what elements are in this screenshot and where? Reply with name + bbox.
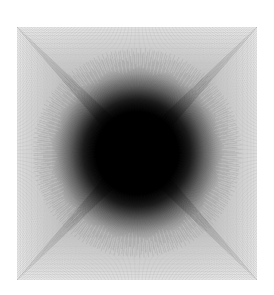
mesh-plot-canvas: [0, 0, 274, 295]
figure-root: [0, 0, 274, 295]
